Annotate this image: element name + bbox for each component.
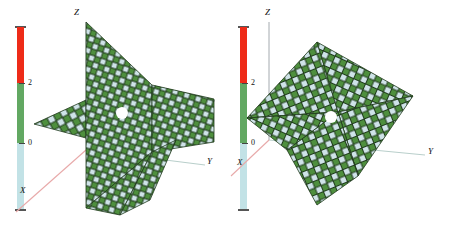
plot-area-right (225, 0, 451, 231)
axis-label-x-left: X (20, 186, 26, 195)
axis-label-y-right: Y (428, 147, 433, 156)
surface-plot-left: 2 0 (0, 0, 226, 231)
axis-label-z-left: Z (74, 8, 79, 17)
surface-center-hole (116, 107, 128, 119)
axis-x-left (16, 150, 86, 212)
plot-area-left (0, 0, 226, 231)
axis-label-y-left: Y (207, 157, 212, 166)
figure-canvas: 2 0 (0, 0, 451, 231)
surface-plot-right: 2 0 (225, 0, 451, 231)
axis-label-x-right: X (237, 158, 243, 167)
axis-label-z-right: Z (265, 8, 270, 17)
surface-mesh-left (34, 22, 214, 215)
surface-center-hole (325, 111, 337, 123)
surface-mesh-right (247, 42, 413, 205)
